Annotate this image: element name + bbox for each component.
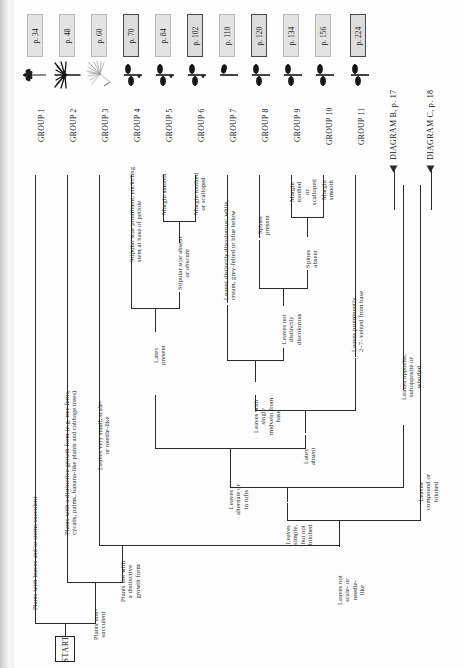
line-leaves-opposite-whorled xyxy=(403,185,404,390)
group-label-4: GROUP 4 xyxy=(134,108,143,142)
group-label-5: GROUP 5 xyxy=(166,108,175,142)
succulent-rosette-icon xyxy=(22,62,48,88)
opposite-leaves-icon-10 xyxy=(314,62,336,88)
page-box-group-8[interactable]: p. 120 xyxy=(251,14,267,57)
page-box-group-1[interactable]: p. 34 xyxy=(27,14,43,57)
grass-tuft-icon xyxy=(86,60,114,90)
diagram-b-arrow-head xyxy=(390,166,398,173)
page-box-group-2[interactable]: p. 48 xyxy=(59,14,75,57)
group-label-3: GROUP 3 xyxy=(102,108,111,142)
page-box-group-11[interactable]: p. 224 xyxy=(350,14,366,57)
join-not-distinctive xyxy=(99,545,340,546)
diagram-c-arrow-head xyxy=(427,166,435,173)
diagram-b-arrow-shaft xyxy=(394,170,395,210)
page-box-label: p. 110 xyxy=(223,26,232,44)
branch-leaves-simple-not-bilobed: Leaves simple, but not bilobed xyxy=(284,525,314,545)
stem-group-8 xyxy=(259,175,260,185)
line-not-distinctive-down xyxy=(122,567,123,583)
page-box-label: p. 102 xyxy=(191,26,200,45)
scan-gutter xyxy=(0,0,10,668)
line-spines-absent-down xyxy=(307,270,308,289)
line-single-midvein-down xyxy=(255,395,256,411)
stem-group-1 xyxy=(35,175,36,485)
page-box-group-4[interactable]: p. 70 xyxy=(123,14,139,57)
page-box-label: p. 60 xyxy=(95,28,104,43)
diagram-b-link[interactable]: DIAGRAM B, p. 17 xyxy=(390,90,399,160)
diagram-c-link[interactable]: DIAGRAM C, p. 18 xyxy=(427,90,436,160)
branch-leaves-alternate-tufts: Leaves alternate or in tufts xyxy=(227,484,249,515)
branch-leaves-not-scale-needle: Leaves not scale- or needle- like xyxy=(336,575,366,605)
page-box-group-10[interactable]: p. 156 xyxy=(315,14,331,57)
line-leaves-alternate-up xyxy=(230,448,231,470)
start-label: START xyxy=(61,635,70,662)
page-box-group-3[interactable]: p. 60 xyxy=(91,14,107,57)
page-box-group-9[interactable]: p. 134 xyxy=(283,14,299,57)
start-node[interactable]: START xyxy=(55,636,75,662)
line-leaves-simple-down xyxy=(287,503,288,521)
branch-leaves-prominently-veined: Leaves prominently 2–7- veined from base xyxy=(350,291,365,352)
page-box-label: p. 134 xyxy=(287,26,296,45)
branch-distinctive-growth: Plants with a distinctive growth form (e… xyxy=(63,390,78,535)
group-label-1: GROUP 1 xyxy=(38,108,47,142)
opposite-leaves-icon-11 xyxy=(349,62,371,88)
line-margin-smooth-1 xyxy=(163,185,164,221)
line-leaves-alternate-down xyxy=(230,470,231,488)
branch-leaves-single-midvein: Leaves with single midvein from base xyxy=(252,398,282,435)
diagram-canvas: p. 34 p. 48 p. 60 p. 70 p. 84 p. 102 p. … xyxy=(0,0,464,668)
group-label-2: GROUP 2 xyxy=(70,108,79,142)
group-label-7: GROUP 7 xyxy=(230,108,239,142)
scan-gutter-shadow xyxy=(10,0,14,668)
group-label-8: GROUP 8 xyxy=(262,108,271,142)
diagram-c-arrow-shaft xyxy=(431,170,432,210)
line-leaves-compound-down xyxy=(420,503,421,521)
line-not-discolorous-up xyxy=(283,288,284,306)
line-latex-present-down xyxy=(155,395,156,449)
page-box-label: p. 34 xyxy=(31,28,40,43)
line-leaves-opposite-down xyxy=(403,425,404,488)
line-margin-toothed-2 xyxy=(291,185,292,217)
opposite-leaves-icon-9 xyxy=(282,62,304,88)
line-stipular-absent-down xyxy=(179,292,180,309)
page-box-label: p. 224 xyxy=(354,26,363,45)
line-leaves-compound xyxy=(420,185,421,503)
join-leaves-not-scale xyxy=(287,520,421,521)
line-spines-present xyxy=(259,185,260,238)
line-discolorous xyxy=(227,185,228,303)
line-leaves-not-scale-up xyxy=(339,520,340,542)
page-box-group-7[interactable]: p. 110 xyxy=(219,14,235,57)
line-non-succulent-down xyxy=(95,604,96,624)
line-non-succulent-up xyxy=(95,582,96,604)
page-box-label: p. 70 xyxy=(127,28,136,43)
line-spines-present-down xyxy=(259,240,260,289)
branch-stipular-scar-absent: Stipular scar absent or obscure xyxy=(176,236,191,290)
alternate-leaves-icon-7 xyxy=(218,62,240,88)
page-box-label: p. 120 xyxy=(255,26,264,45)
stem-group-7 xyxy=(227,175,228,185)
page-box-group-6[interactable]: p. 102 xyxy=(187,14,203,57)
line-distinctive-growth-down xyxy=(67,447,68,583)
opposite-leaves-icon-5 xyxy=(154,62,176,88)
page-box-group-5[interactable]: p. 84 xyxy=(155,14,171,57)
palm-frond-icon xyxy=(54,60,82,90)
branch-latex-present: Latex present xyxy=(152,345,167,365)
opposite-leaves-icon-4 xyxy=(122,62,144,88)
page-box-label: p. 48 xyxy=(63,28,72,43)
line-latex-absent-down xyxy=(305,435,306,449)
branch-leaves-not-discolorous: Leaves not distinctly discolorous xyxy=(280,313,302,345)
branch-spines-absent: Spines absent xyxy=(304,250,319,268)
line-spines-absent-up xyxy=(307,217,308,237)
page-box-label: p. 156 xyxy=(319,26,328,45)
line-latex-absent-up xyxy=(305,410,306,433)
page-box-label: p. 84 xyxy=(159,28,168,43)
line-prominently-veined xyxy=(355,185,356,357)
line-succulent-down xyxy=(35,485,36,624)
group-label-11: GROUP 11 xyxy=(358,108,367,145)
line-stipular-present-down xyxy=(131,265,132,309)
group-label-6: GROUP 6 xyxy=(198,108,207,142)
opposite-leaves-icon-8 xyxy=(250,62,272,88)
line-margin-smooth-2 xyxy=(323,185,324,217)
line-prominently-veined-down xyxy=(355,358,356,411)
line-latex-present-up xyxy=(155,308,156,332)
stem-group-11 xyxy=(355,175,356,185)
group-label-9: GROUP 9 xyxy=(294,108,303,142)
